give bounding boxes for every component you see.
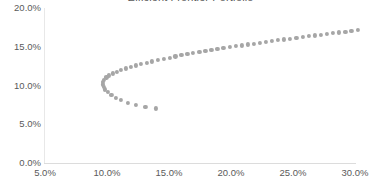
x-axis-tick-label: 30.0%: [342, 168, 369, 178]
efficient-frontier-chart: Efficient Frontier Portfolio 0.0%5.0%10.…: [0, 0, 381, 186]
x-axis-tick-label: 15.0%: [156, 168, 183, 178]
x-axis-tick-label: 20.0%: [218, 168, 245, 178]
x-axis-tick-label: 25.0%: [280, 168, 307, 178]
y-axis-tick-label: 5.0%: [1, 119, 41, 129]
plot-area: [45, 8, 355, 163]
y-axis-tick-label: 10.0%: [1, 81, 41, 91]
y-axis-tick-labels: 0.0%5.0%10.0%15.0%20.0%: [0, 0, 41, 186]
chart-title: Efficient Frontier Portfolio: [0, 0, 381, 3]
x-axis-tick-label: 5.0%: [34, 168, 56, 178]
y-axis-tick-label: 20.0%: [1, 3, 41, 13]
y-axis-tick-label: 15.0%: [1, 42, 41, 52]
x-axis-tick-labels: 5.0%10.0%15.0%20.0%25.0%30.0%: [0, 168, 381, 182]
x-axis-tick-label: 10.0%: [94, 168, 121, 178]
data-point: [356, 28, 360, 32]
x-axis-line: [44, 163, 356, 164]
